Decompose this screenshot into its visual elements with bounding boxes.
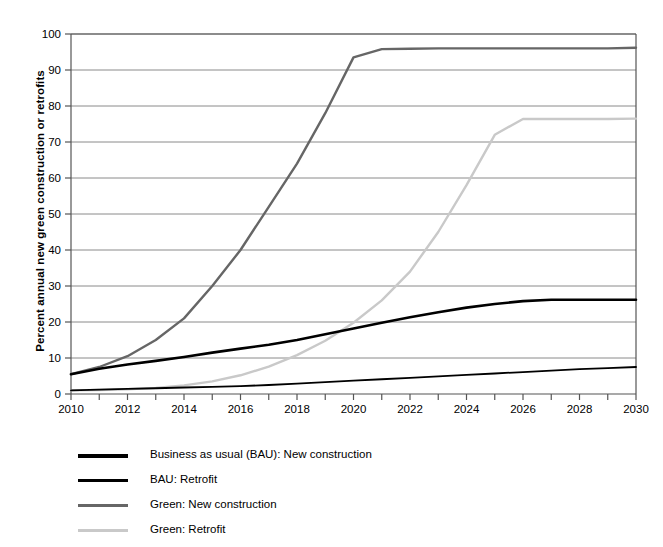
legend-line-swatch [78, 504, 128, 507]
legend-label: Business as usual (BAU): New constructio… [150, 448, 372, 460]
x-tick-label: 2028 [557, 403, 603, 415]
y-tick-label: 10 [27, 352, 61, 364]
x-tick-label: 2026 [500, 403, 546, 415]
x-tick-label: 2020 [331, 403, 377, 415]
y-tick-label: 70 [27, 136, 61, 148]
y-tick-label: 0 [27, 388, 61, 400]
y-tick-label: 40 [27, 244, 61, 256]
x-tick-label: 2012 [105, 403, 151, 415]
series-line [71, 119, 636, 391]
x-tick-label: 2016 [218, 403, 264, 415]
x-tick-label: 2024 [444, 403, 490, 415]
y-tick-label: 50 [27, 208, 61, 220]
x-tick-label: 2014 [161, 403, 207, 415]
y-tick-label: 100 [27, 28, 61, 40]
plot-area [0, 0, 663, 547]
x-tick-label: 2030 [613, 403, 659, 415]
x-tick-label: 2022 [387, 403, 433, 415]
legend-line-swatch [78, 479, 128, 482]
legend-line-swatch [78, 454, 128, 458]
chart-figure: Percent annual new green construction or… [0, 0, 663, 547]
y-tick-label: 60 [27, 172, 61, 184]
y-tick-label: 80 [27, 100, 61, 112]
y-tick-label: 90 [27, 64, 61, 76]
y-tick-label: 20 [27, 316, 61, 328]
legend-label: Green: New construction [150, 498, 277, 510]
y-tick-label: 30 [27, 280, 61, 292]
series-line [71, 48, 636, 375]
legend-label: BAU: Retrofit [150, 473, 217, 485]
legend-line-swatch [78, 529, 128, 532]
legend-label: Green: Retrofit [150, 523, 225, 535]
x-tick-label: 2018 [274, 403, 320, 415]
x-tick-label: 2010 [48, 403, 94, 415]
series-line [71, 300, 636, 375]
